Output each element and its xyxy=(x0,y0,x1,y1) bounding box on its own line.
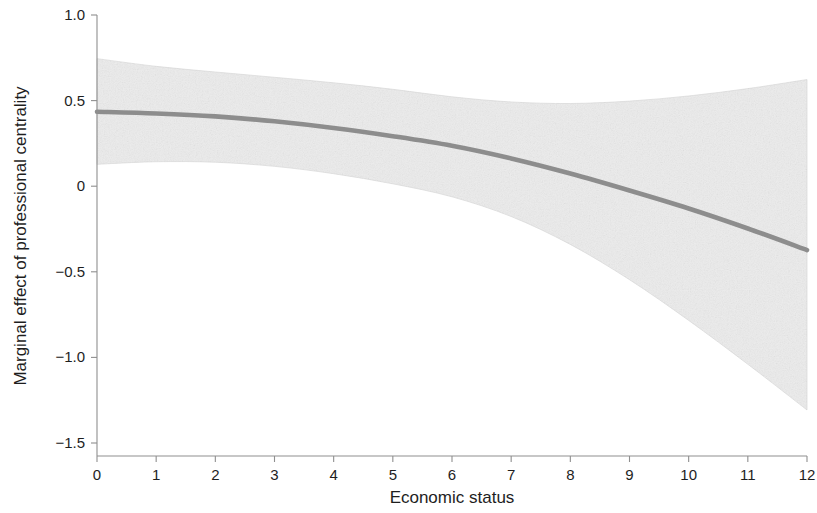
y-tick-label: −0.5 xyxy=(55,263,85,280)
x-tick-label: 8 xyxy=(566,466,574,483)
x-tick-marks xyxy=(97,456,807,462)
confidence-band-group xyxy=(90,40,815,410)
x-tick-label: 12 xyxy=(799,466,816,483)
y-tick-labels: 1.00.50−0.5−1.0−1.5 xyxy=(55,6,85,451)
y-tick-label: 0.5 xyxy=(64,92,85,109)
x-axis-title: Economic status xyxy=(390,488,515,507)
x-tick-label: 1 xyxy=(152,466,160,483)
x-tick-label: 2 xyxy=(211,466,219,483)
y-tick-label: 1.0 xyxy=(64,6,85,23)
x-tick-label: 0 xyxy=(93,466,101,483)
y-tick-label: 0 xyxy=(77,177,85,194)
y-axis-title: Marginal effect of professional centrali… xyxy=(11,86,30,386)
x-tick-labels: 0123456789101112 xyxy=(93,466,816,483)
marginal-effect-figure: 1.00.50−0.5−1.0−1.5 Marginal effect of p… xyxy=(0,0,817,513)
x-tick-label: 4 xyxy=(329,466,337,483)
band-grain-texture xyxy=(90,40,815,410)
y-tick-marks xyxy=(91,15,97,443)
x-tick-label: 11 xyxy=(740,466,756,483)
x-tick-label: 10 xyxy=(680,466,697,483)
x-tick-label: 7 xyxy=(507,466,515,483)
x-tick-label: 9 xyxy=(625,466,633,483)
y-axis: 1.00.50−0.5−1.0−1.5 Marginal effect of p… xyxy=(11,6,97,456)
x-tick-label: 3 xyxy=(270,466,278,483)
x-tick-label: 6 xyxy=(448,466,456,483)
plot-svg: 1.00.50−0.5−1.0−1.5 Marginal effect of p… xyxy=(0,0,817,513)
x-tick-label: 5 xyxy=(389,466,397,483)
y-tick-label: −1.0 xyxy=(55,348,85,365)
y-tick-label: −1.5 xyxy=(55,434,85,451)
x-axis: 0123456789101112 Economic status xyxy=(93,456,816,507)
